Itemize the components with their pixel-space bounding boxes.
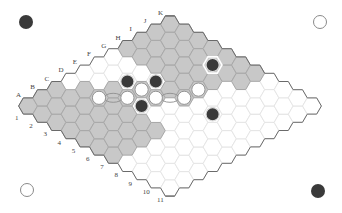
row-label-11: 11 [157,196,164,204]
board-cells [19,16,322,196]
row-label-7: 7 [100,163,104,171]
row-label-5: 5 [72,147,76,155]
white-stone-F4[interactable] [135,83,148,96]
corner-marker-top-right-white [313,15,327,29]
column-label-K: K [158,9,163,17]
column-label-D: D [59,66,64,74]
white-stone-G6[interactable] [178,91,191,104]
column-label-C: C [44,75,49,83]
column-label-E: E [73,58,77,66]
row-label-1: 1 [15,114,19,122]
column-label-A: A [16,91,21,99]
black-stone-E5[interactable] [135,99,148,112]
black-stone-F3[interactable] [121,75,134,88]
black-stone-G4[interactable] [149,75,162,88]
white-stone-E4[interactable] [121,91,134,104]
column-label-F: F [87,50,91,58]
white-stone-F5[interactable] [149,91,162,104]
row-label-3: 3 [43,130,47,138]
hex-cell-D7[interactable] [146,123,165,139]
row-label-4: 4 [58,139,62,147]
row-label-9: 9 [129,180,133,188]
white-stone-H6[interactable] [192,83,205,96]
column-label-H: H [115,34,120,42]
column-label-J: J [144,17,147,25]
black-stone-G8[interactable] [206,108,219,121]
corner-marker-bottom-right-black [311,184,325,198]
row-label-10: 10 [143,188,151,196]
column-label-I: I [130,25,133,33]
row-label-6: 6 [86,155,90,163]
corner-marker-bottom-left-white [20,183,34,197]
column-label-B: B [30,83,35,91]
row-label-2: 2 [29,122,33,130]
white-stone-D3[interactable] [92,91,105,104]
hex-board: ABCDEFGHIJK1234567891011 [0,0,342,213]
corner-marker-top-left-black [19,15,33,29]
column-label-G: G [101,42,106,50]
black-stone-J5[interactable] [206,58,219,71]
row-label-8: 8 [114,171,118,179]
